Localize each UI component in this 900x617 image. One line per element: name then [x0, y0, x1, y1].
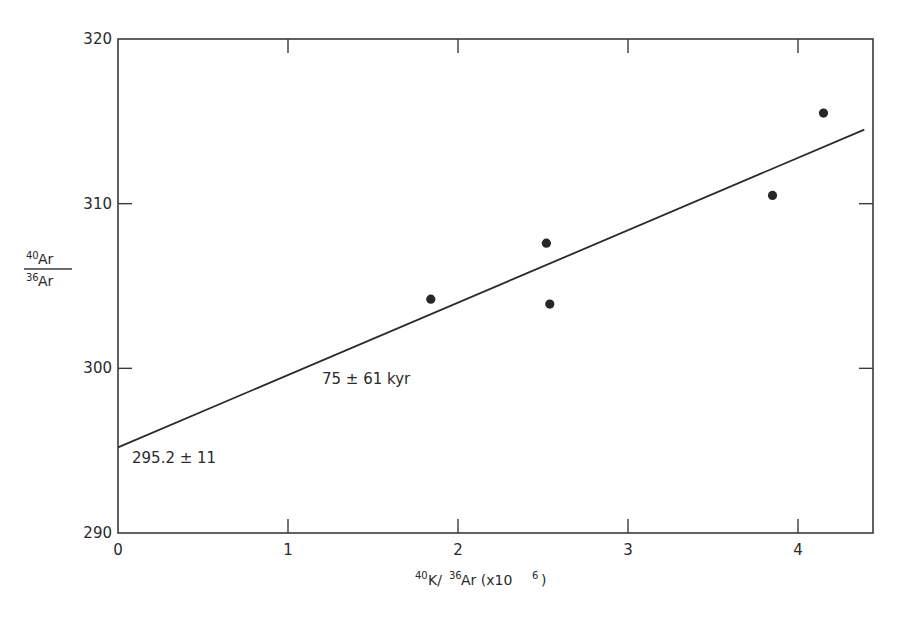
data-point	[426, 295, 435, 304]
tick-labels: 01234290300310320	[83, 30, 802, 559]
y-tick-label: 320	[83, 30, 112, 48]
age-annotation: 75 ± 61 kyr	[322, 370, 411, 388]
data-point	[768, 191, 777, 200]
y-tick-label: 290	[83, 524, 112, 542]
data-point	[542, 239, 551, 248]
fit-line	[118, 130, 864, 448]
x-tick-label: 3	[623, 541, 633, 559]
x-tick-label: 2	[453, 541, 463, 559]
svg-text:36: 36	[26, 272, 39, 283]
data-point	[819, 109, 828, 118]
x-tick-label: 1	[283, 541, 293, 559]
x-tick-label: 4	[793, 541, 803, 559]
data-point	[545, 300, 554, 309]
x-axis-label: 40 K/ 36 Ar (x10 6 )	[415, 570, 546, 588]
svg-text:40: 40	[415, 570, 428, 581]
data-series	[118, 109, 864, 448]
svg-text:Ar: Ar	[38, 251, 54, 267]
svg-text:K/: K/	[428, 572, 442, 588]
x-tick-label: 0	[113, 541, 123, 559]
intercept-annotation: 295.2 ± 11	[132, 449, 216, 467]
svg-text:40: 40	[26, 250, 39, 261]
svg-text:36: 36	[449, 570, 462, 581]
y-tick-label: 310	[83, 195, 112, 213]
y-axis-label: 40 Ar 36 Ar	[24, 250, 72, 289]
isochron-chart: 01234290300310320 40 Ar 36 Ar 40 K/ 36 A…	[0, 0, 900, 617]
svg-text:Ar (x10: Ar (x10	[461, 572, 512, 588]
svg-text:Ar: Ar	[38, 273, 54, 289]
svg-text:6: 6	[532, 570, 538, 581]
svg-text:): )	[541, 572, 546, 588]
y-tick-label: 300	[83, 359, 112, 377]
